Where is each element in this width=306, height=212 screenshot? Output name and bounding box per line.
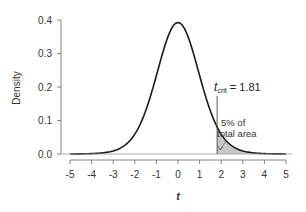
area-annotation-line1: 5% of — [221, 117, 246, 128]
x-axis-ticks: -5-4-3-2-1012345 — [66, 160, 290, 180]
x-axis-label: t — [176, 190, 181, 202]
y-tick-label: 0.4 — [38, 15, 52, 26]
y-axis-ticks: 0.00.10.20.30.4 — [38, 15, 61, 160]
x-tick-label: 0 — [175, 169, 181, 180]
area-annotation-line2: total area — [217, 128, 257, 139]
x-tick-label: 3 — [240, 169, 246, 180]
x-tick-label: -5 — [66, 169, 75, 180]
y-tick-label: 0.1 — [38, 115, 52, 126]
x-tick-label: 4 — [262, 169, 268, 180]
y-tick-label: 0.2 — [38, 82, 52, 93]
x-tick-label: 1 — [197, 169, 203, 180]
x-tick-label: -1 — [152, 169, 161, 180]
t-distribution-chart: 0.00.10.20.30.4 -5-4-3-2-1012345 Density… — [0, 0, 306, 212]
y-axis-label: Density — [11, 71, 22, 104]
x-tick-label: 5 — [283, 169, 289, 180]
x-tick-label: -4 — [87, 169, 96, 180]
x-tick-label: -3 — [109, 169, 118, 180]
y-tick-label: 0.3 — [38, 48, 52, 59]
y-tick-label: 0.0 — [38, 149, 52, 160]
x-tick-label: 2 — [218, 169, 224, 180]
critical-value-annotation: tcrit = 1.81 — [214, 80, 261, 94]
x-tick-label: -2 — [130, 169, 139, 180]
